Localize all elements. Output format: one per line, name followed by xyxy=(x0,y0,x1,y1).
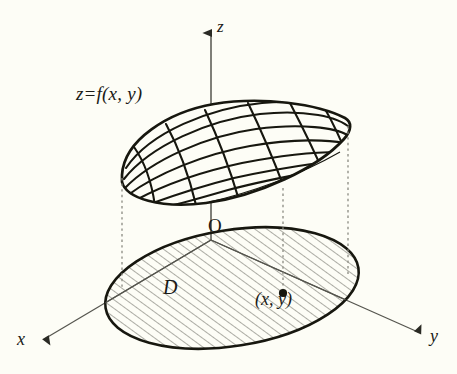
surface-equation-label: z=f(x, y) xyxy=(76,84,142,103)
surface-group xyxy=(122,101,350,206)
figure-root: z=f(x, y) z x y O D (x, y) xyxy=(0,0,457,374)
domain-region xyxy=(97,211,368,366)
axis-x-label: x xyxy=(17,330,25,348)
origin-label: O xyxy=(208,216,222,235)
domain-label: D xyxy=(163,277,177,297)
domain-ellipse-fill xyxy=(97,211,368,366)
axis-z-label: z xyxy=(217,18,224,35)
axis-y-label: y xyxy=(430,327,438,345)
marked-point-label: (x, y) xyxy=(255,290,292,308)
diagram-canvas xyxy=(0,0,457,374)
